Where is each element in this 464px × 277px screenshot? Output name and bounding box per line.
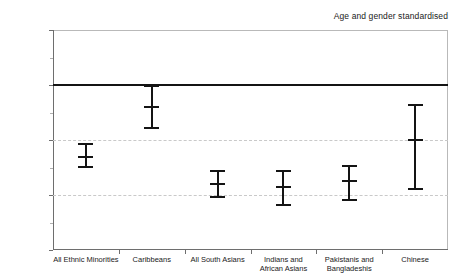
gridline bbox=[53, 195, 448, 196]
data-point-marker bbox=[408, 139, 423, 141]
error-bar-cap-upper bbox=[342, 165, 357, 167]
x-axis-category-label: Chinese bbox=[375, 255, 455, 264]
error-bar-cap-upper bbox=[144, 85, 159, 87]
data-point-marker bbox=[276, 186, 291, 188]
y-axis-minor-tick bbox=[50, 113, 53, 114]
error-bar-stem bbox=[348, 165, 350, 201]
y-axis-minor-tick bbox=[50, 223, 53, 224]
x-axis-tick bbox=[185, 250, 186, 254]
y-axis-minor-tick bbox=[50, 58, 53, 59]
error-bar-stem bbox=[414, 104, 416, 189]
error-bar-cap-upper bbox=[210, 170, 225, 172]
error-bar-cap-lower bbox=[210, 196, 225, 198]
x-axis-tick bbox=[251, 250, 252, 254]
error-bar-cap-upper bbox=[78, 143, 93, 145]
y-axis-minor-tick bbox=[50, 168, 53, 169]
gridline bbox=[53, 140, 448, 141]
error-bar bbox=[208, 170, 228, 198]
error-bar-cap-lower bbox=[276, 204, 291, 206]
error-bar-stem bbox=[282, 170, 284, 206]
error-bar-cap-lower bbox=[408, 188, 423, 190]
error-bar bbox=[142, 85, 162, 129]
data-point-marker bbox=[78, 156, 93, 158]
plot-area bbox=[53, 30, 448, 250]
error-bar bbox=[339, 165, 359, 201]
chart-container: Age and gender standardised 1.2Whites0.8… bbox=[0, 0, 464, 277]
error-bar-cap-lower bbox=[78, 166, 93, 168]
x-axis-tick bbox=[382, 250, 383, 254]
y-axis-tick bbox=[49, 140, 53, 141]
error-bar bbox=[405, 104, 425, 189]
x-axis-tick bbox=[119, 250, 120, 254]
error-bar-cap-upper bbox=[276, 170, 291, 172]
y-axis-tick bbox=[49, 85, 53, 86]
data-point-marker bbox=[210, 183, 225, 185]
whites-reference-line bbox=[53, 84, 448, 86]
y-axis-tick bbox=[49, 30, 53, 31]
y-axis-tick bbox=[49, 250, 53, 251]
y-axis-tick bbox=[49, 195, 53, 196]
data-point-marker bbox=[144, 106, 159, 108]
error-bar-cap-lower bbox=[342, 199, 357, 201]
error-bar-cap-lower bbox=[144, 127, 159, 129]
x-axis-tick bbox=[316, 250, 317, 254]
plot-frame-top bbox=[53, 30, 448, 31]
error-bar bbox=[76, 143, 96, 168]
chart-annotation: Age and gender standardised bbox=[334, 11, 448, 21]
error-bar-cap-upper bbox=[408, 104, 423, 106]
error-bar bbox=[273, 170, 293, 206]
data-point-marker bbox=[342, 180, 357, 182]
